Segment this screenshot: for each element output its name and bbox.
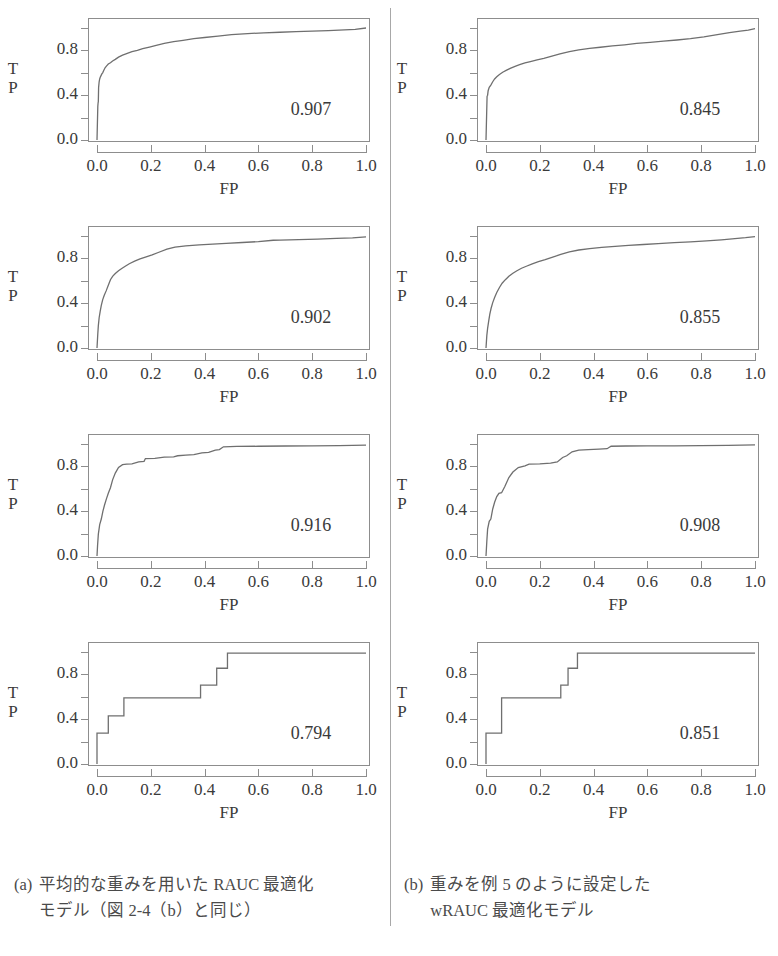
y-axis-tick-label: 0.8 — [22, 455, 78, 475]
y-tick-mark — [81, 742, 88, 743]
y-axis-tick-label: 0.4 — [411, 500, 467, 520]
y-tick-mark — [470, 652, 477, 653]
x-tick-mark — [540, 353, 541, 361]
y-axis-title-line-1: T — [4, 475, 22, 494]
x-tick-mark — [647, 769, 648, 777]
x-tick-mark — [312, 145, 313, 153]
x-axis-title: FP — [88, 595, 370, 615]
y-axis-title: TP — [393, 59, 411, 97]
y-tick-mark — [81, 652, 88, 653]
x-axis-tick-label: 0.8 — [676, 780, 726, 800]
y-tick-mark — [470, 326, 477, 327]
y-tick-mark — [81, 28, 88, 29]
y-tick-mark — [470, 489, 477, 490]
auc-value: 0.907 — [291, 99, 332, 120]
x-axis-line — [97, 152, 366, 153]
x-axis-tick-label: 0.8 — [287, 572, 337, 592]
y-axis-tick-label: 0.0 — [411, 129, 467, 149]
x-tick-mark — [594, 145, 595, 153]
x-axis-tick-label: 0.2 — [126, 156, 176, 176]
x-tick-mark — [594, 769, 595, 777]
y-axis-tick-label: 0.0 — [22, 129, 78, 149]
y-axis-tick-label: 0.0 — [411, 337, 467, 357]
x-tick-mark — [151, 353, 152, 361]
x-axis-line — [97, 568, 366, 569]
x-axis-tick-label: 0.2 — [126, 780, 176, 800]
y-tick-mark — [81, 489, 88, 490]
x-axis-tick-label: 0.6 — [622, 156, 672, 176]
y-axis-title-line-2: P — [393, 286, 411, 305]
y-axis-tick-label: 0.0 — [22, 337, 78, 357]
x-axis-line — [97, 360, 366, 361]
x-tick-mark — [312, 353, 313, 361]
x-axis-tick-label: 1.0 — [730, 780, 778, 800]
y-tick-mark — [81, 281, 88, 282]
subfigure-caption-b: (b)重みを例 5 のように設定したwRAUC 最適化モデル — [404, 872, 764, 924]
y-tick-mark — [470, 303, 477, 304]
x-tick-mark — [366, 561, 367, 569]
y-tick-mark — [81, 466, 88, 467]
x-axis-tick-label: 0.0 — [72, 156, 122, 176]
x-axis-tick-label: 0.6 — [233, 364, 283, 384]
y-axis-tick-label: 0.4 — [22, 708, 78, 728]
y-axis-title-line-2: P — [4, 702, 22, 721]
auc-value: 0.902 — [291, 307, 332, 328]
x-axis-tick-label: 0.4 — [180, 364, 230, 384]
x-axis-tick-label: 0.0 — [72, 364, 122, 384]
x-axis-line — [486, 360, 755, 361]
y-tick-mark — [470, 534, 477, 535]
x-tick-mark — [540, 769, 541, 777]
y-axis-tick-label: 0.8 — [411, 663, 467, 683]
x-axis-tick-label: 0.0 — [72, 780, 122, 800]
x-axis-tick-label: 0.6 — [233, 156, 283, 176]
y-axis-tick-label: 0.8 — [411, 39, 467, 59]
x-axis-tick-label: 0.4 — [569, 364, 619, 384]
y-tick-mark — [470, 556, 477, 557]
x-tick-mark — [205, 769, 206, 777]
y-tick-mark — [81, 95, 88, 96]
x-tick-mark — [97, 353, 98, 361]
roc-panel: 0.00.40.8TP0.00.20.40.60.81.0FP0.794 — [0, 624, 389, 832]
y-axis-title: TP — [393, 683, 411, 721]
x-axis-tick-label: 0.4 — [569, 572, 619, 592]
y-axis-title: TP — [4, 267, 22, 305]
x-axis-tick-label: 0.4 — [180, 156, 230, 176]
roc-panel: 0.00.40.8TP0.00.20.40.60.81.0FP0.908 — [389, 416, 778, 624]
y-axis-title: TP — [4, 475, 22, 513]
y-tick-mark — [470, 28, 477, 29]
x-axis-title: FP — [88, 803, 370, 823]
y-tick-mark — [470, 73, 477, 74]
x-tick-mark — [366, 145, 367, 153]
auc-value: 0.845 — [680, 99, 721, 120]
x-tick-mark — [540, 145, 541, 153]
y-axis-tick-label: 0.0 — [22, 545, 78, 565]
roc-panel: 0.00.40.8TP0.00.20.40.60.81.0FP0.855 — [389, 208, 778, 416]
x-tick-mark — [594, 353, 595, 361]
y-tick-mark — [81, 50, 88, 51]
y-axis-tick-label: 0.8 — [411, 247, 467, 267]
x-axis-title: FP — [477, 595, 759, 615]
x-axis-tick-label: 0.2 — [126, 572, 176, 592]
y-axis-tick-label: 0.8 — [22, 247, 78, 267]
x-axis-tick-label: 0.8 — [287, 780, 337, 800]
x-tick-mark — [701, 769, 702, 777]
y-axis-title-line-1: T — [393, 59, 411, 78]
x-tick-mark — [258, 769, 259, 777]
x-axis-tick-label: 0.0 — [461, 572, 511, 592]
x-tick-mark — [151, 769, 152, 777]
y-tick-mark — [81, 534, 88, 535]
roc-panel: 0.00.40.8TP0.00.20.40.60.81.0FP0.902 — [0, 208, 389, 416]
x-axis-tick-label: 1.0 — [341, 156, 391, 176]
y-tick-mark — [81, 326, 88, 327]
y-tick-mark — [470, 258, 477, 259]
y-tick-mark — [470, 674, 477, 675]
x-tick-mark — [312, 561, 313, 569]
auc-value: 0.916 — [291, 515, 332, 536]
y-axis-tick-label: 0.4 — [22, 292, 78, 312]
y-axis-title-line-2: P — [4, 78, 22, 97]
y-axis-title-line-2: P — [393, 78, 411, 97]
x-tick-mark — [366, 353, 367, 361]
x-axis-tick-label: 0.2 — [515, 156, 565, 176]
y-tick-mark — [470, 348, 477, 349]
caption-line-2: wRAUC 最適化モデル — [430, 898, 764, 924]
